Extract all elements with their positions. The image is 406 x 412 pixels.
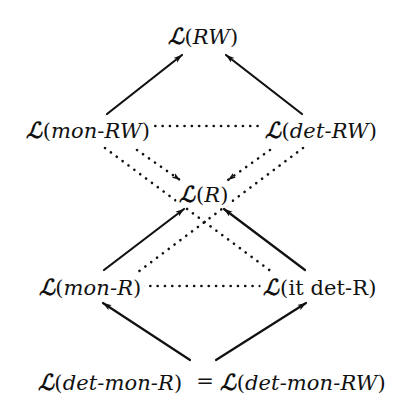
open-paren: ( xyxy=(280,276,288,300)
node-mon-rw[interactable]: ℒ(mon-RW) xyxy=(23,118,153,143)
node-mon-r[interactable]: ℒ(mon-R) xyxy=(36,275,145,300)
open-paren: ( xyxy=(237,371,245,395)
open-paren: ( xyxy=(184,25,192,49)
close-paren: ) xyxy=(230,25,238,49)
equality-operator: = xyxy=(189,370,221,393)
open-paren: ( xyxy=(196,183,204,207)
node-rw-arg: RW xyxy=(193,25,230,49)
node-det-rw[interactable]: ℒ(det-RW) xyxy=(262,118,380,143)
script-l-symbol: ℒ xyxy=(168,23,185,49)
script-l-symbol: ℒ xyxy=(265,117,282,143)
open-paren: ( xyxy=(282,119,290,143)
node-det-mon-rw[interactable]: ℒ(det-mon-RW) xyxy=(217,370,389,395)
edge-it-det-r-to-r xyxy=(224,209,305,270)
edge-det-rw-to-mon-r xyxy=(138,148,303,272)
edge-mon-r-to-r xyxy=(104,209,184,270)
close-paren: ) xyxy=(133,276,141,300)
close-paren: ) xyxy=(174,371,182,395)
inclusion-diagram-figure: ℒ(RW) ℒ(mon-RW) ℒ(det-RW) ℒ(R) ℒ(mon-R) … xyxy=(0,0,406,412)
node-det-mon-r-arg: det-mon-R xyxy=(63,371,174,395)
edges-group xyxy=(103,55,306,360)
node-mon-r-arg: mon-R xyxy=(64,276,134,300)
script-l-symbol: ℒ xyxy=(220,369,237,395)
edge-mon-rw-to-r xyxy=(137,150,180,180)
close-paren: ) xyxy=(142,119,150,143)
equals-sign: = xyxy=(192,369,218,393)
edge-bottom-to-mon-r xyxy=(103,303,190,360)
node-det-rw-arg: det-RW xyxy=(290,119,369,143)
node-mon-rw-arg: mon-RW xyxy=(51,119,142,143)
node-r-arg: R xyxy=(204,183,220,207)
node-r[interactable]: ℒ(R) xyxy=(176,182,231,207)
close-paren: ) xyxy=(220,183,228,207)
open-paren: ( xyxy=(54,371,62,395)
script-l-symbol: ℒ xyxy=(26,117,43,143)
script-l-symbol: ℒ xyxy=(263,274,280,300)
open-paren: ( xyxy=(55,276,63,300)
node-it-det-r-arg: it det-R xyxy=(288,276,368,300)
node-det-mon-rw-arg: det-mon-RW xyxy=(245,371,378,395)
node-rw[interactable]: ℒ(RW) xyxy=(165,24,241,49)
close-paren: ) xyxy=(378,371,386,395)
edge-det-rw-to-r xyxy=(228,150,270,180)
node-det-mon-r[interactable]: ℒ(det-mon-R) xyxy=(35,370,186,395)
script-l-symbol: ℒ xyxy=(38,369,55,395)
edge-mon-rw-to-rw xyxy=(107,55,182,114)
close-paren: ) xyxy=(369,119,377,143)
edge-bottom-to-it-det-r xyxy=(216,303,306,360)
script-l-symbol: ℒ xyxy=(39,274,56,300)
open-paren: ( xyxy=(43,119,51,143)
node-it-det-r[interactable]: ℒ(it det-R) xyxy=(260,275,379,300)
edge-det-rw-to-rw xyxy=(226,55,302,114)
close-paren: ) xyxy=(368,276,376,300)
script-l-symbol: ℒ xyxy=(179,181,196,207)
